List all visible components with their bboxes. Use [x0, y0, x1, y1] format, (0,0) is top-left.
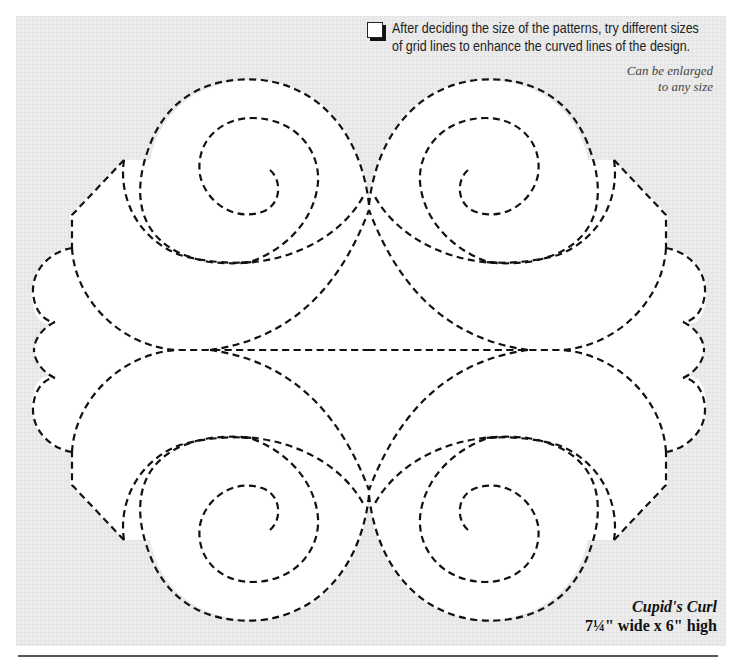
pattern-caption: Cupid's Curl 7¼" wide x 6" high — [585, 597, 717, 635]
quadrant-bottom-right — [369, 350, 706, 621]
pattern-dimensions: 7¼" wide x 6" high — [585, 616, 717, 635]
quadrant-bottom-left — [32, 350, 369, 621]
cupids-curl-pattern — [0, 0, 737, 666]
quadrant-top-right — [369, 79, 706, 350]
quadrant-top-left — [32, 79, 369, 350]
bottom-divider — [18, 655, 718, 657]
pattern-name: Cupid's Curl — [585, 597, 717, 616]
